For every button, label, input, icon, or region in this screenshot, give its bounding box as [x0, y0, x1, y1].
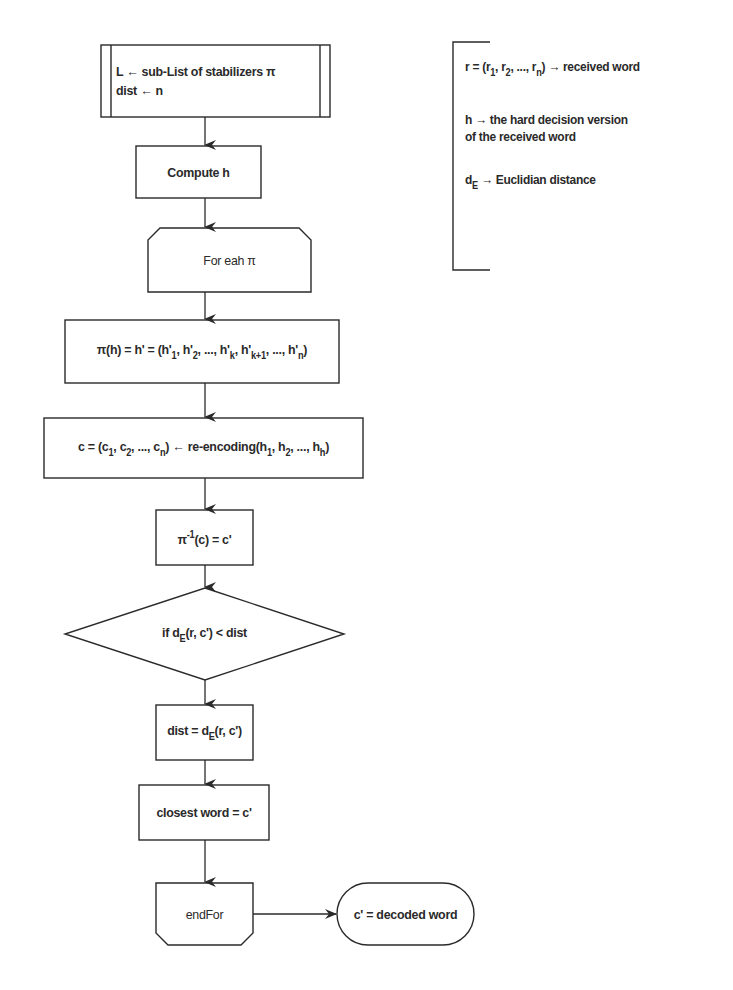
result-label: c' = decoded word: [354, 907, 458, 922]
for-each-label: For eah π: [203, 253, 255, 268]
inverse-label: π-1(c) = c': [178, 529, 232, 547]
init-node: L ← sub-List of stabilizers π dist ← n: [116, 50, 300, 112]
result-node: c' = decoded word: [342, 883, 468, 945]
legend-de: dE → Euclidian distance: [465, 171, 704, 194]
update-dist-label: dist = dE(r, c'): [167, 723, 242, 742]
legend-h: h → the hard decision version of the rec…: [465, 111, 704, 145]
decision-label: if dE(r, c') < dist: [162, 625, 247, 644]
compute-h-node: Compute h: [141, 146, 256, 198]
closest-node: closest word = c': [144, 785, 264, 840]
for-each-node: For eah π: [155, 228, 305, 292]
decision-node: if dE(r, c') < dist: [76, 588, 333, 680]
update-dist-node: dist = dE(r, c'): [160, 705, 249, 760]
reencode-label: c = (c1, c2, ..., cn) ← re-encoding(h1, …: [78, 439, 329, 458]
end-for-node: endFor: [160, 883, 249, 945]
inverse-node: π-1(c) = c': [160, 510, 249, 565]
compute-h-label: Compute h: [167, 165, 229, 180]
permute-label: π(h) = h' = (h'1, h'2, ..., h'k, h'k+1, …: [97, 342, 307, 361]
end-for-label: endFor: [186, 907, 224, 922]
reencode-node: c = (c1, c2, ..., cn) ← re-encoding(h1, …: [57, 418, 350, 478]
legend: r = (r1, r2, ..., rn) → received word h …: [465, 58, 725, 220]
closest-label: closest word = c': [156, 805, 251, 820]
permute-node: π(h) = h' = (h'1, h'2, ..., h'k, h'k+1, …: [76, 320, 328, 383]
legend-r: r = (r1, r2, ..., rn) → received word: [465, 58, 704, 81]
init-line-2: dist ← n: [116, 83, 163, 98]
init-line-1: L ← sub-List of stabilizers π: [116, 64, 275, 79]
